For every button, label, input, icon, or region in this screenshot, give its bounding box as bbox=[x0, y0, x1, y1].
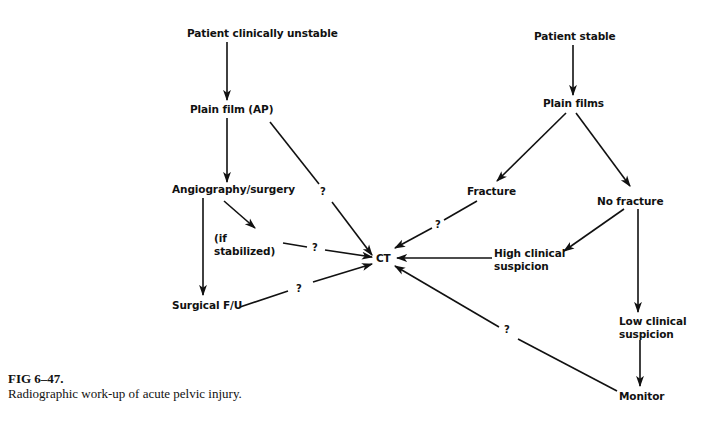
node-surgical-fu: Surgical F/U bbox=[172, 299, 242, 312]
figure-caption: FIG 6–47. Radiographic work-up of acute … bbox=[8, 371, 242, 401]
arrow-plainfilms-to-fracture bbox=[497, 113, 566, 181]
flowchart: Patient clinically unstable Plain film (… bbox=[0, 0, 708, 422]
arrow-surgicalfu-to-ct-a bbox=[240, 291, 288, 307]
arrow-ifstabilized-to-ct-a bbox=[283, 243, 307, 247]
arrow-plainfilm-to-ct-a bbox=[270, 122, 319, 184]
node-ct: CT bbox=[376, 252, 391, 265]
arrow-fracture-to-ct-b bbox=[395, 228, 432, 248]
arrow-monitor-to-ct-b bbox=[395, 266, 499, 327]
figure-description: Radiographic work-up of acute pelvic inj… bbox=[8, 386, 242, 401]
node-fracture: Fracture bbox=[467, 185, 516, 198]
edge-label-question-plainfilm-ct: ? bbox=[320, 186, 326, 198]
node-no-fracture: No fracture bbox=[597, 195, 663, 208]
arrow-plainfilms-to-nofracture bbox=[576, 113, 630, 186]
node-low-clinical-suspicion: Low clinical suspicion bbox=[619, 315, 686, 341]
edge-label-question-fracture-ct: ? bbox=[435, 219, 441, 231]
edge-label-question-monitor-ct: ? bbox=[504, 324, 510, 336]
arrow-surgicalfu-to-ct-b bbox=[313, 264, 372, 282]
node-monitor: Monitor bbox=[619, 390, 664, 403]
figure-label: FIG 6–47. bbox=[8, 371, 242, 386]
node-angiography-surgery: Angiography/surgery bbox=[172, 183, 295, 196]
node-plain-film-ap: Plain film (AP) bbox=[190, 103, 273, 116]
node-plain-films: Plain films bbox=[543, 97, 604, 110]
edge-label-question-surgicalfu-ct: ? bbox=[296, 283, 302, 295]
node-high-clinical-suspicion: High clinical suspicion bbox=[494, 247, 565, 273]
node-patient-stable: Patient stable bbox=[534, 30, 616, 43]
arrow-nofracture-to-highsuspicion bbox=[564, 209, 624, 251]
arrow-monitor-to-ct-a bbox=[518, 339, 617, 391]
flowchart-edges bbox=[0, 0, 708, 422]
node-patient-clinically-unstable: Patient clinically unstable bbox=[187, 27, 338, 40]
arrow-angio-to-ifstabilized bbox=[224, 201, 255, 228]
arrow-fracture-to-ct-a bbox=[444, 201, 477, 220]
arrow-ifstabilized-to-ct-b bbox=[325, 250, 372, 257]
arrow-plainfilm-to-ct-b bbox=[332, 202, 372, 255]
edge-label-question-ifstabilized-ct: ? bbox=[312, 242, 318, 254]
node-if-stabilized: (if stabilized) bbox=[214, 232, 275, 258]
